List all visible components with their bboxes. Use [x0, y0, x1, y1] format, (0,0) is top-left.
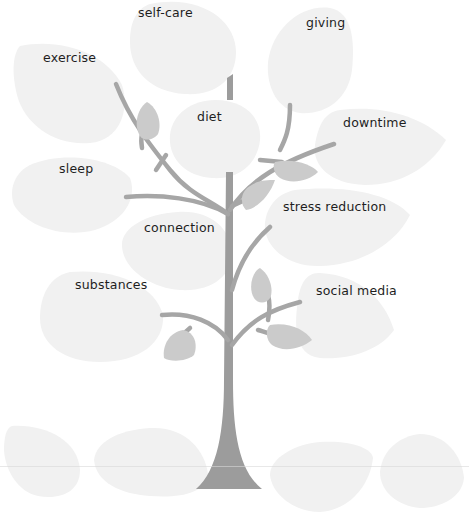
small-leaf — [242, 180, 275, 210]
small-leaf — [274, 161, 318, 182]
label-substances: substances — [75, 278, 147, 292]
leaf-blank-3 — [270, 442, 373, 512]
leaf-blank-4 — [380, 434, 464, 508]
label-giving: giving — [306, 16, 345, 30]
small-leaf — [164, 330, 196, 361]
label-connection: connection — [144, 221, 215, 235]
paper-fold-line — [0, 466, 469, 467]
label-diet: diet — [197, 110, 222, 124]
label-social-media: social media — [316, 284, 397, 298]
label-downtime: downtime — [343, 116, 407, 130]
leaf-blank-1 — [4, 426, 80, 497]
small-leaf — [251, 268, 271, 303]
tree-graphic — [0, 0, 469, 519]
label-self-care: self-care — [138, 6, 193, 20]
label-stress-reduction: stress reduction — [283, 200, 386, 214]
label-exercise: exercise — [43, 51, 96, 65]
wellness-tree-diagram: self-care giving exercise diet downtime … — [0, 0, 469, 519]
label-sleep: sleep — [59, 162, 93, 176]
leaf-blank-2 — [94, 428, 208, 497]
small-leaf — [137, 102, 160, 140]
